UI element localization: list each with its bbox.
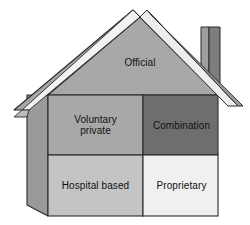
quadrant-proprietary — [143, 155, 218, 216]
side-wall — [27, 95, 48, 216]
roof-left-eave — [14, 110, 29, 117]
quadrant-voluntary-private — [48, 95, 143, 155]
quadrant-hospital-based — [48, 155, 143, 216]
quadrant-combination — [143, 95, 218, 155]
house-diagram: Official Voluntary private Combination H… — [0, 0, 250, 225]
house-diagram-graphic — [0, 0, 250, 225]
front-wall — [48, 95, 218, 216]
